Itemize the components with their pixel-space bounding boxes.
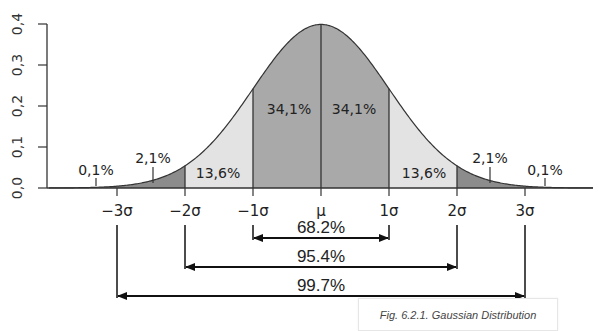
region-label: 0,1% — [78, 162, 114, 178]
interval-label: 99.7% — [297, 276, 345, 295]
interval-label: 68.2% — [297, 218, 345, 237]
region-label: 2,1% — [135, 150, 171, 166]
x-tick-label: −3σ — [101, 202, 133, 220]
region-label: 0,1% — [527, 162, 563, 178]
region-label: 13,6% — [402, 165, 446, 181]
y-tick-label: 0,4 — [9, 13, 25, 35]
region-label: 2,1% — [472, 150, 508, 166]
x-tick-label: 3σ — [515, 202, 535, 220]
x-tick-label: −2σ — [169, 202, 201, 220]
x-tick-label: 1σ — [379, 202, 399, 220]
y-tick-label: 0,3 — [9, 54, 25, 76]
y-tick-label: 0,1 — [9, 136, 25, 158]
region-label: 13,6% — [196, 165, 240, 181]
region-label: 34,1% — [332, 101, 376, 117]
interval-arrows: 68.2%95.4%99.7% — [117, 218, 525, 298]
figure-caption: Fig. 6.2.1. Gaussian Distribution — [380, 309, 537, 321]
figure-caption-box: Fig. 6.2.1. Gaussian Distribution — [358, 298, 558, 331]
x-tick-label: 2σ — [447, 202, 467, 220]
density-curve — [49, 24, 593, 188]
y-tick-label: 0,0 — [9, 177, 25, 199]
x-tick-label: −1σ — [237, 202, 269, 220]
region-label: 34,1% — [267, 101, 311, 117]
interval-label: 95.4% — [297, 247, 345, 266]
y-tick-label: 0,2 — [9, 95, 25, 117]
